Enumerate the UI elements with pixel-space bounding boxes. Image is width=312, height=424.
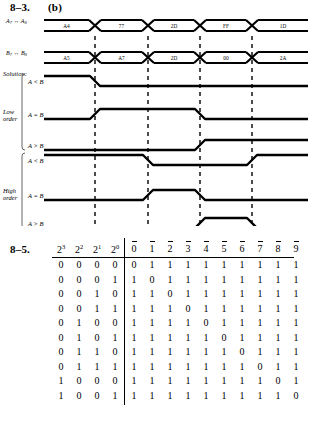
output-cell: 1	[269, 360, 287, 375]
output-cell: 1	[179, 287, 197, 302]
output-header-2: 2	[161, 238, 179, 258]
output-cell: 1	[197, 302, 215, 317]
output-cell: 0	[125, 258, 144, 273]
input-cell: 0	[106, 345, 125, 360]
output-cell: 1	[197, 287, 215, 302]
decoder-truth-table: 232221200123456789 000001111111110001101…	[52, 238, 305, 403]
output-cell: 1	[251, 302, 269, 317]
output-cell: 1	[233, 389, 251, 404]
output-cell: 1	[269, 273, 287, 288]
table-row: 10001111111101	[52, 374, 305, 389]
output-cell: 0	[269, 374, 287, 389]
output-cell: 0	[287, 389, 305, 404]
output-cell: 0	[233, 345, 251, 360]
timing-diagram: A7 ↔ A0 B7 ↔ B0 A < B A = B A > B A < B …	[0, 14, 312, 226]
input-cell: 0	[52, 273, 70, 288]
input-cell: 0	[70, 287, 88, 302]
output-cell: 1	[215, 345, 233, 360]
output-cell: 1	[215, 374, 233, 389]
output-cell: 1	[143, 287, 161, 302]
output-cell: 1	[143, 345, 161, 360]
output-cell: 0	[197, 316, 215, 331]
input-cell: 1	[106, 302, 125, 317]
bus-value: A4	[63, 23, 70, 29]
output-cell: 1	[269, 287, 287, 302]
input-cell: 0	[52, 345, 70, 360]
waveform-high-order-1	[44, 190, 308, 200]
output-cell: 1	[143, 316, 161, 331]
timing-svg: A4772DFF1DA5A72D002A	[0, 14, 312, 226]
output-cell: 1	[215, 302, 233, 317]
output-cell: 1	[161, 345, 179, 360]
output-header-5: 5	[215, 238, 233, 258]
input-cell: 0	[88, 374, 106, 389]
input-cell: 1	[106, 389, 125, 404]
output-cell: 1	[287, 273, 305, 288]
bus-value: A5	[63, 55, 70, 61]
table-row: 01011111101111	[52, 331, 305, 346]
output-cell: 1	[287, 374, 305, 389]
output-cell: 1	[161, 389, 179, 404]
input-cell: 0	[70, 302, 88, 317]
waveform-low-order-0	[44, 76, 308, 86]
input-cell: 1	[106, 360, 125, 375]
bus-value: A7	[118, 55, 125, 61]
output-cell: 1	[251, 331, 269, 346]
output-cell: 1	[197, 360, 215, 375]
output-cell: 1	[287, 331, 305, 346]
output-cell: 1	[215, 360, 233, 375]
input-cell: 0	[88, 258, 106, 273]
output-cell: 1	[161, 331, 179, 346]
waveform-high-order-0	[44, 155, 308, 165]
input-cell: 1	[70, 316, 88, 331]
output-cell: 1	[161, 273, 179, 288]
output-cell: 1	[215, 389, 233, 404]
output-cell: 1	[143, 258, 161, 273]
output-cell: 0	[251, 360, 269, 375]
waveform-low-order-1	[44, 109, 308, 119]
output-cell: 1	[197, 374, 215, 389]
output-cell: 1	[251, 389, 269, 404]
input-cell: 1	[70, 331, 88, 346]
output-cell: 1	[287, 287, 305, 302]
output-cell: 1	[161, 258, 179, 273]
output-cell: 1	[251, 287, 269, 302]
problem-83-part: (b)	[48, 1, 62, 13]
output-cell: 1	[161, 302, 179, 317]
output-cell: 1	[179, 273, 197, 288]
output-cell: 1	[125, 287, 144, 302]
output-cell: 1	[287, 360, 305, 375]
output-cell: 1	[179, 389, 197, 404]
input-cell: 0	[70, 273, 88, 288]
input-cell: 0	[52, 287, 70, 302]
output-header-1: 1	[143, 238, 161, 258]
waveform-low-order-2	[44, 140, 308, 150]
output-header-6: 6	[233, 238, 251, 258]
output-cell: 1	[215, 273, 233, 288]
output-cell: 1	[287, 258, 305, 273]
output-cell: 1	[233, 374, 251, 389]
table-header-row: 232221200123456789	[52, 238, 305, 258]
output-cell: 0	[215, 331, 233, 346]
output-cell: 1	[179, 345, 197, 360]
bus-value: 2D	[171, 23, 178, 29]
bus-value: 2A	[280, 55, 287, 61]
output-cell: 1	[269, 316, 287, 331]
input-cell: 0	[70, 258, 88, 273]
output-cell: 1	[143, 302, 161, 317]
output-cell: 1	[125, 316, 144, 331]
output-cell: 1	[287, 316, 305, 331]
input-cell: 1	[88, 345, 106, 360]
table-row: 00000111111111	[52, 258, 305, 273]
output-cell: 1	[287, 302, 305, 317]
input-cell: 1	[88, 302, 106, 317]
table-row: 00011011111111	[52, 273, 305, 288]
waveform-high-order-2	[44, 218, 308, 226]
output-cell: 1	[179, 258, 197, 273]
bus-value: 2D	[171, 55, 178, 61]
input-cell: 0	[106, 287, 125, 302]
output-cell: 1	[251, 374, 269, 389]
table-row: 10011111111110	[52, 389, 305, 404]
output-header-4: 4	[197, 238, 215, 258]
input-cell: 0	[52, 302, 70, 317]
